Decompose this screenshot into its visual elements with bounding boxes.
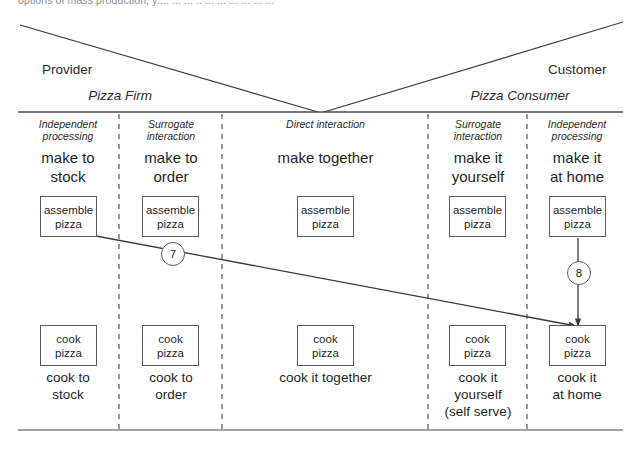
column-make-it-at-home: Independent processing make it at home <box>529 118 625 188</box>
activity-box-line2: pizza <box>55 217 82 231</box>
bottom-label-line2: yourself <box>430 386 526 403</box>
flow-badge-8[interactable]: 8 <box>567 261 591 285</box>
activity-box-assemble-pizza[interactable]: assemble pizza <box>449 196 506 237</box>
activity-box-assemble-pizza[interactable]: assemble pizza <box>40 196 97 237</box>
activity-box-line2: pizza <box>564 217 591 231</box>
activity-box-cook-pizza[interactable]: cook pizza <box>297 325 354 366</box>
activity-box-line2: pizza <box>157 346 184 360</box>
bottom-label-line2: at home <box>529 386 625 403</box>
activity-box-line1: cook <box>56 332 80 346</box>
column-mode-line1: Independent <box>18 118 118 130</box>
party-label-pizza-consumer: Pizza Consumer <box>420 88 620 103</box>
activity-box-cook-pizza[interactable]: cook pizza <box>142 325 199 366</box>
column-mode-line1: Surrogate <box>121 118 221 130</box>
column-bottom-label: cook it yourself (self serve) <box>430 369 526 420</box>
activity-box-line2: pizza <box>157 217 184 231</box>
party-label-pizza-firm: Pizza Firm <box>40 88 200 103</box>
column-make-to-stock: Independent processing make to stock <box>18 118 118 188</box>
column-bottom-label: cook to stock <box>18 369 118 403</box>
bottom-label-line1: cook it together <box>224 369 427 386</box>
activity-box-cook-pizza[interactable]: cook pizza <box>549 325 606 366</box>
activity-box-assemble-pizza[interactable]: assemble pizza <box>549 196 606 237</box>
column-mode-label: Surrogate interaction <box>121 118 221 144</box>
column-title: make together <box>224 148 427 188</box>
column-bottom-label: cook to order <box>121 369 221 403</box>
column-bottom-label: cook it together <box>224 369 427 386</box>
activity-box-line1: cook <box>465 332 489 346</box>
column-mode-line1: Independent <box>529 118 625 130</box>
column-title-line1: make to <box>18 148 118 167</box>
column-bottom-label: cook it at home <box>529 369 625 403</box>
activity-box-line2: pizza <box>312 217 339 231</box>
column-title-line1: make to <box>121 148 221 167</box>
column-mode-label: Independent processing <box>18 118 118 144</box>
column-title-line2: order <box>121 167 221 186</box>
column-title-line2: stock <box>18 167 118 186</box>
bottom-label-line1: cook it <box>529 369 625 386</box>
bottom-label-line2: stock <box>18 386 118 403</box>
column-title: make it yourself <box>430 148 526 188</box>
column-mode-line2: processing <box>18 130 118 142</box>
provider-side-label: Provider <box>42 62 92 77</box>
column-make-it-yourself: Surrogate interaction make it yourself <box>430 118 526 188</box>
activity-box-line2: pizza <box>464 217 491 231</box>
customer-side-label: Customer <box>548 62 607 77</box>
column-title: make it at home <box>529 148 625 188</box>
bottom-label-line1: cook to <box>121 369 221 386</box>
column-make-to-order: Surrogate interaction make to order <box>121 118 221 188</box>
activity-box-line2: pizza <box>55 346 82 360</box>
activity-box-assemble-pizza[interactable]: assemble pizza <box>297 196 354 237</box>
column-title-line2: yourself <box>430 167 526 186</box>
column-mode-label: Independent processing <box>529 118 625 144</box>
flow-badge-7[interactable]: 7 <box>161 242 185 266</box>
activity-box-line1: assemble <box>553 203 602 217</box>
column-mode-line2: processing <box>529 130 625 142</box>
activity-box-line2: pizza <box>312 346 339 360</box>
column-mode-line1: Direct interaction <box>224 118 427 130</box>
bottom-label-line1: cook to <box>18 369 118 386</box>
column-mode-label: Direct interaction <box>224 118 427 144</box>
column-title: make to order <box>121 148 221 188</box>
column-make-together: Direct interaction make together <box>224 118 427 188</box>
activity-box-line1: assemble <box>301 203 350 217</box>
bottom-label-line1: cook it <box>430 369 526 386</box>
activity-box-line1: cook <box>565 332 589 346</box>
column-title-line2: at home <box>529 167 625 186</box>
activity-box-line1: cook <box>313 332 337 346</box>
diagram-canvas: options of mass production, y.... ... ..… <box>0 0 641 453</box>
column-mode-line2: interaction <box>430 130 526 142</box>
activity-box-cook-pizza[interactable]: cook pizza <box>449 325 506 366</box>
activity-box-assemble-pizza[interactable]: assemble pizza <box>142 196 199 237</box>
bottom-label-line2: order <box>121 386 221 403</box>
column-title-line1: make together <box>224 148 427 167</box>
activity-box-line1: assemble <box>453 203 502 217</box>
activity-box-line1: assemble <box>44 203 93 217</box>
activity-box-line1: assemble <box>146 203 195 217</box>
column-title: make to stock <box>18 148 118 188</box>
activity-box-line2: pizza <box>464 346 491 360</box>
column-title-line1: make it <box>529 148 625 167</box>
activity-box-line2: pizza <box>564 346 591 360</box>
activity-box-cook-pizza[interactable]: cook pizza <box>40 325 97 366</box>
bottom-label-line3: (self serve) <box>430 403 526 420</box>
column-mode-line2: interaction <box>121 130 221 142</box>
column-mode-label: Surrogate interaction <box>430 118 526 144</box>
activity-box-line1: cook <box>158 332 182 346</box>
column-mode-line1: Surrogate <box>430 118 526 130</box>
clipped-caption-text: options of mass production, y.... ... ..… <box>18 0 448 7</box>
column-title-line1: make it <box>430 148 526 167</box>
